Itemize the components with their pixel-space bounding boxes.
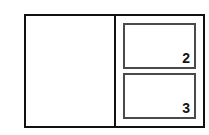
- cell-box-2[interactable]: 2: [123, 23, 196, 69]
- left-panel[interactable]: [26, 16, 116, 126]
- diagram-canvas: 2 3: [0, 0, 209, 135]
- cell-box-3[interactable]: 3: [123, 73, 196, 119]
- outer-frame: 2 3: [24, 14, 205, 128]
- cell-label-3: 3: [182, 101, 194, 117]
- cell-label-2: 2: [182, 51, 194, 67]
- right-panel: 2 3: [116, 16, 203, 126]
